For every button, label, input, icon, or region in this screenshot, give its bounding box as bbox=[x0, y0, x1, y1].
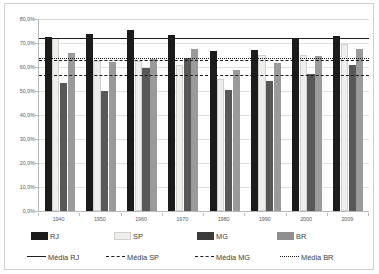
gridline bbox=[39, 19, 369, 20]
legend-item-media-dash[interactable]: Média SP bbox=[106, 249, 159, 265]
x-axis-tick-label: 1980 bbox=[203, 216, 244, 223]
bar-br-1990 bbox=[274, 63, 281, 211]
bar-mg-2000 bbox=[307, 74, 314, 211]
x-axis: 19401950196019701980199020002009 bbox=[38, 213, 368, 227]
bar-br-2009 bbox=[356, 49, 363, 211]
legend-label: Média MG bbox=[216, 253, 250, 262]
reference-line-media-mg bbox=[39, 75, 369, 76]
legend-label: Média RJ bbox=[48, 253, 79, 262]
bar-sp-1950 bbox=[93, 61, 100, 211]
legend-item-media-solid[interactable]: Média RJ bbox=[27, 249, 79, 265]
bar-br-1940 bbox=[68, 53, 75, 211]
bar-sp-1970 bbox=[176, 65, 183, 211]
y-axis-tick-label: 30,0% bbox=[5, 136, 35, 142]
bar-br-2000 bbox=[315, 56, 322, 211]
bar-rj-1970 bbox=[168, 35, 175, 211]
x-axis-tick-mark bbox=[368, 213, 369, 216]
reference-line-media-br bbox=[39, 58, 369, 59]
plot-area bbox=[38, 19, 369, 212]
legend-line-dash-icon bbox=[106, 253, 125, 261]
bar-rj-2009 bbox=[333, 36, 340, 211]
reference-line-media-rj bbox=[39, 38, 369, 39]
bar-mg-1980 bbox=[225, 90, 232, 211]
legend-item-media-dot[interactable]: Média BR bbox=[280, 249, 333, 265]
y-axis-tick-label: 0,0% bbox=[5, 208, 35, 214]
y-axis-tick-label: 60,0% bbox=[5, 64, 35, 70]
y-axis-tick-label: 80,0% bbox=[5, 16, 35, 22]
legend-swatch-br-icon bbox=[277, 232, 294, 240]
bar-mg-1970 bbox=[184, 58, 191, 211]
x-axis-tick-label: 1950 bbox=[79, 216, 120, 223]
reference-line-media-sp bbox=[39, 60, 369, 61]
legend-line-stroke bbox=[27, 256, 46, 257]
x-axis-tick-label: 1940 bbox=[38, 216, 79, 223]
legend-line-dashdot-icon bbox=[195, 253, 214, 261]
bar-rj-2000 bbox=[292, 39, 299, 211]
legend-label: MG bbox=[216, 232, 228, 241]
x-axis-tick-label: 1960 bbox=[121, 216, 162, 223]
bar-sp-2009 bbox=[341, 44, 348, 211]
legend-item-br[interactable]: BR bbox=[277, 228, 306, 244]
chart-container: 0,0%10,0%20,0%30,0%40,0%50,0%60,0%70,0%8… bbox=[4, 3, 374, 270]
bar-mg-2009 bbox=[349, 65, 356, 211]
y-axis-tick-label: 10,0% bbox=[5, 184, 35, 190]
y-axis-tick-label: 70,0% bbox=[5, 40, 35, 46]
bar-sp-1980 bbox=[217, 79, 224, 211]
legend-label: Média BR bbox=[301, 253, 333, 262]
bar-rj-1990 bbox=[251, 50, 258, 211]
legend-row-means: Média RJMédia SPMédia MGMédia BR bbox=[9, 249, 371, 269]
x-axis-tick-label: 2009 bbox=[327, 216, 368, 223]
legend-label: Média SP bbox=[127, 253, 159, 262]
bar-sp-1940 bbox=[52, 38, 59, 211]
legend-line-dot-icon bbox=[280, 253, 299, 261]
legend-item-sp[interactable]: SP bbox=[114, 228, 143, 244]
legend-item-media-dashdot[interactable]: Média MG bbox=[195, 249, 250, 265]
legend-item-rj[interactable]: RJ bbox=[31, 228, 59, 244]
legend-row-series: RJSPMGBR bbox=[9, 228, 371, 248]
bar-sp-1960 bbox=[135, 61, 142, 211]
y-axis-tick-label: 40,0% bbox=[5, 112, 35, 118]
y-axis: 0,0%10,0%20,0%30,0%40,0%50,0%60,0%70,0%8… bbox=[5, 19, 35, 211]
x-axis-tick-label: 2000 bbox=[286, 216, 327, 223]
legend-line-stroke bbox=[195, 256, 214, 257]
bar-mg-1990 bbox=[266, 81, 273, 211]
bar-br-1970 bbox=[191, 49, 198, 211]
y-axis-tick-label: 20,0% bbox=[5, 160, 35, 166]
legend-label: RJ bbox=[50, 232, 59, 241]
bar-mg-1960 bbox=[142, 68, 149, 211]
legend-label: SP bbox=[133, 232, 143, 241]
legend-line-stroke bbox=[280, 256, 299, 257]
x-axis-tick-mark bbox=[38, 213, 39, 216]
bar-br-1960 bbox=[150, 59, 157, 211]
legend-swatch-mg-icon bbox=[197, 232, 214, 240]
legend-label: BR bbox=[296, 232, 306, 241]
legend-line-stroke bbox=[106, 256, 125, 257]
chart-legend: RJSPMGBR Média RJMédia SPMédia MGMédia B… bbox=[9, 228, 371, 270]
bar-br-1950 bbox=[109, 62, 116, 211]
y-axis-tick-label: 50,0% bbox=[5, 88, 35, 94]
bar-rj-1940 bbox=[45, 37, 52, 211]
legend-swatch-rj-icon bbox=[31, 232, 48, 240]
x-axis-tick-label: 1970 bbox=[162, 216, 203, 223]
bar-br-1980 bbox=[233, 70, 240, 211]
bar-mg-1940 bbox=[60, 83, 67, 211]
legend-item-mg[interactable]: MG bbox=[197, 228, 228, 244]
bar-sp-2000 bbox=[300, 55, 307, 211]
legend-swatch-sp-icon bbox=[114, 232, 131, 240]
legend-line-solid-icon bbox=[27, 253, 46, 261]
bar-mg-1950 bbox=[101, 91, 108, 211]
bar-sp-1990 bbox=[258, 55, 265, 211]
x-axis-tick-label: 1990 bbox=[244, 216, 285, 223]
